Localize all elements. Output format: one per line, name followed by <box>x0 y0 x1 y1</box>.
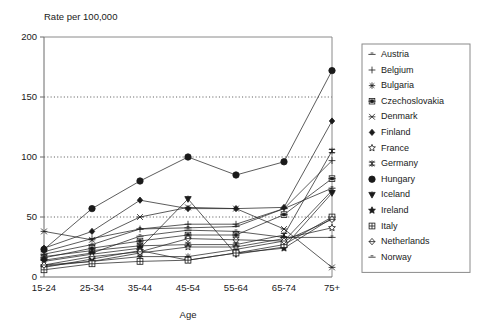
marker-czechoslovakia-65-74 <box>280 212 287 218</box>
line-chart: Rate per 100,000 050100150200 15-2425-34… <box>0 0 477 327</box>
legend-label-norway: Norway <box>381 252 412 262</box>
marker-legend-czechoslovakia <box>368 98 375 104</box>
legend-label-germany: Germany <box>381 158 419 168</box>
legend-label-netherlands: Netherlands <box>381 236 430 246</box>
marker-hungary-65-74 <box>281 159 287 165</box>
x-axis-title: Age <box>180 309 197 320</box>
y-tick-label-50: 50 <box>26 211 37 222</box>
y-tick-label-0: 0 <box>32 271 37 282</box>
legend-label-ireland: Ireland <box>381 205 409 215</box>
legend-label-italy: Italy <box>381 221 398 231</box>
x-tick-label-45-54: 45-54 <box>176 282 200 293</box>
x-tick-label-15-24: 15-24 <box>32 282 56 293</box>
y-tick-label-150: 150 <box>21 91 37 102</box>
legend: AustriaBelgiumBulgariaCzechoslovakiaDenm… <box>362 44 470 272</box>
x-tick-label-55-64: 55-64 <box>224 282 248 293</box>
marker-legend-bulgaria <box>369 82 375 88</box>
marker-hungary-45-54 <box>185 154 191 160</box>
marker-hungary-35-44 <box>137 178 143 184</box>
marker-hungary-15-24 <box>41 246 47 252</box>
legend-label-iceland: Iceland <box>381 189 410 199</box>
marker-italy-45-54 <box>185 257 191 263</box>
marker-legend-hungary <box>369 176 375 182</box>
legend-label-belgium: Belgium <box>381 65 414 75</box>
marker-czechoslovakia-75+ <box>328 176 335 182</box>
y-tick-label-200: 200 <box>21 31 37 42</box>
x-tick-label-35-44: 35-44 <box>128 282 152 293</box>
legend-label-finland: Finland <box>381 127 411 137</box>
marker-italy-25-34 <box>89 261 95 267</box>
legend-label-hungary: Hungary <box>381 174 416 184</box>
x-tick-label-75+: 75+ <box>324 282 341 293</box>
legend-label-austria: Austria <box>381 49 409 59</box>
legend-label-france: France <box>381 143 409 153</box>
x-tick-label-65-74: 65-74 <box>272 282 296 293</box>
x-tick-label-25-34: 25-34 <box>80 282 104 293</box>
marker-italy-55-64 <box>233 250 239 256</box>
marker-hungary-55-64 <box>233 172 239 178</box>
legend-label-bulgaria: Bulgaria <box>381 80 414 90</box>
marker-italy-35-44 <box>137 259 143 265</box>
legend-label-denmark: Denmark <box>381 111 418 121</box>
legend-label-czechoslovakia: Czechoslovakia <box>381 96 444 106</box>
chart-title: Rate per 100,000 <box>44 11 117 22</box>
y-tick-label-100: 100 <box>21 151 37 162</box>
marker-hungary-75+ <box>329 67 335 73</box>
marker-legend-italy <box>369 223 375 229</box>
marker-hungary-25-34 <box>89 205 95 211</box>
